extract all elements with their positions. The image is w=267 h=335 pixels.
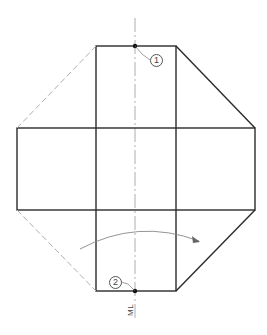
arrow-head-icon	[192, 236, 200, 243]
horizontal-band	[17, 128, 255, 210]
vertical-strip	[96, 46, 176, 291]
upper-right-diagonal	[176, 46, 255, 128]
marker-2: 2	[109, 276, 122, 289]
diagram-canvas	[0, 0, 267, 335]
upper-left-dashed-diagonal	[17, 46, 96, 128]
marker-1: 1	[150, 54, 163, 67]
lower-left-dashed-diagonal	[17, 210, 96, 291]
rotation-arc	[80, 231, 199, 249]
leader-2	[121, 282, 135, 291]
leader-1	[135, 46, 150, 60]
centerline-label: ML	[126, 304, 135, 316]
lower-right-diagonal	[176, 210, 255, 291]
